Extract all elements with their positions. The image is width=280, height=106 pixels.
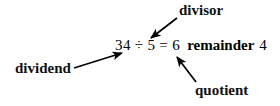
division-vocabulary-diagram: divisor dividend quotient 34÷5=6remainde…: [0, 0, 280, 106]
dividend-arrow: [74, 53, 122, 68]
divisor-arrow: [151, 18, 177, 38]
arrow-layer: [0, 0, 280, 106]
quotient-arrow: [177, 57, 196, 82]
